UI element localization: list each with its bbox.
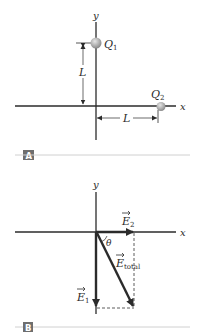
vertical-distance-label: L — [78, 66, 86, 79]
charge-q1-label: Q1 — [104, 38, 118, 52]
vector-e2-label: E2 — [121, 215, 135, 229]
x-axis-label: x — [180, 101, 186, 112]
vector-e1-label: E1 — [76, 291, 90, 305]
charge-q2-label: Q2 — [151, 88, 165, 102]
charge-q2 — [157, 102, 166, 111]
y-axis-label: y — [92, 10, 99, 21]
arrowhead-up-icon — [81, 44, 86, 49]
panel-b: y x E2 E1 Etotal θ B — [15, 179, 190, 333]
y-axis-label: y — [92, 179, 99, 190]
horizontal-distance-label: L — [122, 112, 130, 125]
arrowhead-left-icon — [97, 116, 102, 121]
panel-b-tag-text: B — [25, 323, 31, 333]
electric-field-figure: y x Q1 L Q2 L A y x — [0, 0, 201, 336]
arrowhead-right-icon — [152, 116, 157, 121]
angle-label: θ — [106, 238, 112, 248]
x-axis-label: x — [180, 227, 186, 238]
vector-e-total-label: Etotal — [115, 257, 141, 271]
charge-q1 — [91, 38, 102, 49]
panel-a: y x Q1 L Q2 L A — [15, 10, 190, 161]
